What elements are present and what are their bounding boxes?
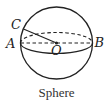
label-c: C <box>11 17 21 32</box>
label-b: B <box>94 35 105 50</box>
label-o: O <box>51 43 62 58</box>
label-a: A <box>5 36 15 51</box>
sphere-diagram: C A B O Sphere <box>0 0 109 102</box>
radius-oc <box>24 29 57 43</box>
figure-caption: Sphere <box>38 85 74 100</box>
